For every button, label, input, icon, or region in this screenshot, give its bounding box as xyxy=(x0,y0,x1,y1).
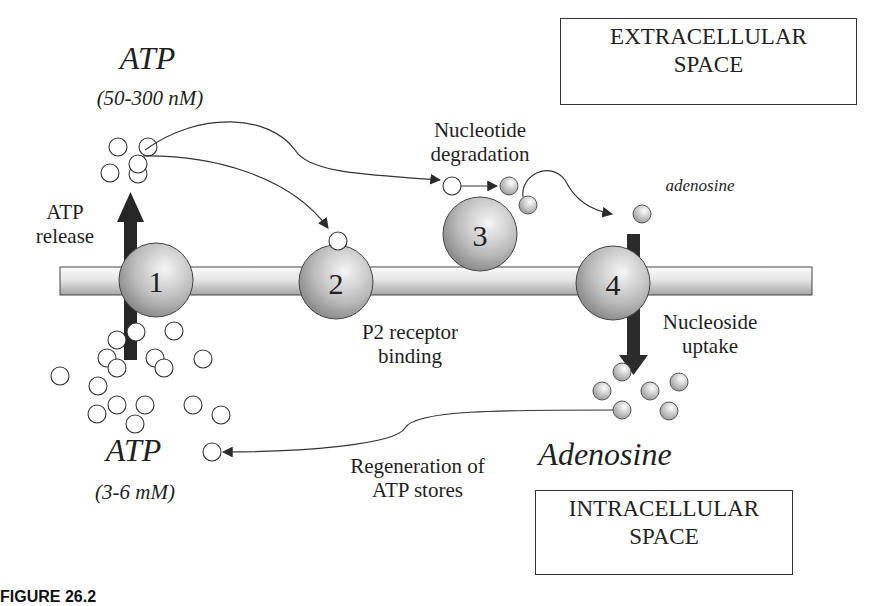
step-3-label-line2: degradation xyxy=(410,142,550,166)
intracellular-space-label: INTRACELLULAR SPACE xyxy=(535,490,793,575)
extracellular-line2: SPACE xyxy=(561,51,856,79)
atp-intracellular-title: ATP xyxy=(96,432,171,469)
step-1-label-line1: ATP xyxy=(20,200,110,224)
nucleotide-molecule xyxy=(443,177,461,195)
figure-caption-fragment: FIGURE 26.2 xyxy=(0,588,96,606)
extracellular-space-label: EXTRACELLULAR SPACE xyxy=(560,18,857,105)
step-3-label: Nucleotide degradation xyxy=(410,118,550,166)
step-2-label: P2 receptor binding xyxy=(340,320,480,368)
atp-extracellular-title: ATP xyxy=(110,40,185,77)
extracellular-line1: EXTRACELLULAR xyxy=(561,23,856,51)
regeneration-label-line1: Regeneration of xyxy=(330,454,505,478)
extracellular-adenosine-molecule xyxy=(633,205,651,223)
nucleoside-transporter-4: 4 xyxy=(576,246,650,320)
step-4-label-line1: Nucleoside xyxy=(645,310,775,334)
step-4-label-line2: uptake xyxy=(645,334,775,358)
step-1-label-line2: release xyxy=(20,224,110,248)
svg-text:2: 2 xyxy=(329,267,344,300)
intermediate-molecule xyxy=(500,177,518,195)
step-2-label-line1: P2 receptor xyxy=(340,320,480,344)
regeneration-label-line2: ATP stores xyxy=(330,478,505,502)
transporter-1: 1 xyxy=(119,243,193,317)
adenosine-molecule xyxy=(519,196,537,214)
step-3-label-line1: Nucleotide xyxy=(410,118,550,142)
step-1-label: ATP release xyxy=(20,200,110,248)
svg-text:3: 3 xyxy=(473,219,488,252)
svg-text:1: 1 xyxy=(149,265,164,298)
regeneration-label: Regeneration of ATP stores xyxy=(330,454,505,502)
svg-text:4: 4 xyxy=(606,268,621,301)
step-2-label-line2: binding xyxy=(340,344,480,368)
adenosine-intracellular-label: Adenosine xyxy=(530,436,680,473)
atp-intracellular-concentration: (3-6 mM) xyxy=(75,480,195,504)
atp-extracellular-concentration: (50-300 nM) xyxy=(75,86,225,110)
intracellular-line2: SPACE xyxy=(536,523,792,551)
ectonucleotidase-3: 3 xyxy=(443,197,517,271)
intracellular-line1: INTRACELLULAR xyxy=(536,495,792,523)
intracellular-adenosine-molecules xyxy=(593,363,688,420)
p2-receptor-2: 2 xyxy=(299,245,373,319)
extracellular-atp-molecules xyxy=(101,138,157,183)
atp-to-receptor-arrow xyxy=(143,156,328,228)
bound-atp-molecule xyxy=(329,232,347,250)
step-4-label: Nucleoside uptake xyxy=(645,310,775,358)
atp-to-degradation-arrow xyxy=(145,122,440,180)
adenosine-extracellular-label: adenosine xyxy=(645,176,755,196)
